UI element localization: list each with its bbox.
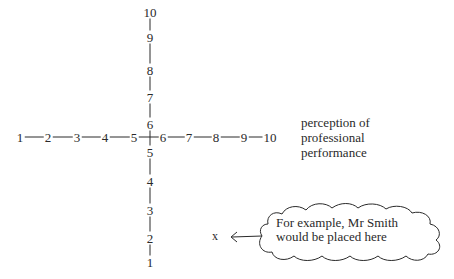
vertical-tick-3: 3 (146, 204, 155, 217)
vertical-tick-5: 5 (146, 146, 155, 159)
horizontal-tick-9: 9 (240, 131, 249, 144)
callout-arrow-icon (231, 232, 262, 242)
axis-label-line-3: performance (301, 145, 421, 160)
horizontal-tick-7: 7 (185, 131, 194, 144)
callout-line-1: For example, Mr Smith (276, 216, 436, 230)
axis-label-line-1: perception of (301, 115, 421, 130)
vertical-tick-7: 7 (146, 91, 155, 104)
horizontal-tick-5: 5 (130, 131, 139, 144)
axis-label-line-2: professional (301, 130, 421, 145)
horizontal-tick-4: 4 (101, 131, 110, 144)
horizontal-tick-1: 1 (16, 131, 25, 144)
vertical-tick-9: 9 (146, 31, 155, 44)
horizontal-tick-8: 8 (212, 131, 221, 144)
vertical-tick-1: 1 (146, 256, 155, 269)
vertical-tick-8: 8 (146, 64, 155, 77)
vertical-tick-4: 4 (146, 175, 155, 188)
vertical-tick-10: 10 (143, 6, 158, 19)
callout-text: For example, Mr Smith would be placed he… (276, 216, 436, 244)
horizontal-axis-label: perception of professional performance (301, 115, 421, 160)
two-axis-rating-diagram: 1 2 3 4 5 6 7 8 9 10 10 9 8 7 6 5 4 3 2 … (0, 0, 454, 279)
horizontal-tick-6: 6 (159, 131, 168, 144)
callout-line-2: would be placed here (276, 230, 436, 244)
vertical-tick-2: 2 (146, 232, 155, 245)
vertical-tick-6: 6 (146, 118, 155, 131)
horizontal-tick-3: 3 (73, 131, 82, 144)
horizontal-tick-10: 10 (263, 131, 278, 144)
placement-marker: x (212, 230, 218, 242)
horizontal-tick-2: 2 (44, 131, 53, 144)
